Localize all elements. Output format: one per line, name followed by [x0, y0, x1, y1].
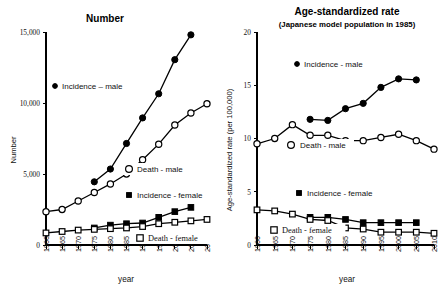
data-point [107, 181, 113, 187]
data-point [431, 146, 437, 152]
x-tick-label: 1965 [271, 236, 280, 252]
y-tick-label: 0 [36, 241, 40, 250]
data-point [59, 229, 65, 235]
data-point [156, 141, 162, 147]
x-tick-label: 1990 [359, 236, 368, 252]
legend-item: Incidence - female [122, 189, 219, 201]
data-point [378, 229, 384, 235]
x-tick-label: 1960 [42, 236, 51, 252]
x-axis-title: year [118, 275, 134, 284]
x-tick-label: 1995 [377, 236, 386, 252]
data-point [343, 217, 349, 223]
data-point [342, 106, 348, 112]
legend-item: Incidence – male [48, 80, 136, 92]
y-tick-label: 15 [244, 81, 252, 90]
chart-svg-number: Number05,00010,00015,0001960196519701975… [0, 0, 222, 286]
x-tick-label: 1985 [122, 236, 131, 252]
data-point [43, 230, 49, 236]
series-0 [307, 76, 419, 124]
legend-item: Death - female [133, 232, 211, 244]
data-point [325, 117, 331, 123]
x-tick-label: 1980 [106, 236, 115, 252]
data-point [378, 134, 384, 140]
data-point [307, 116, 313, 122]
data-point [91, 179, 97, 185]
legend-label: Death - female [282, 226, 332, 235]
data-point [378, 84, 384, 90]
data-point [156, 91, 162, 97]
data-point [414, 229, 420, 235]
data-point [172, 122, 178, 128]
legend-marker [271, 227, 277, 233]
y-tick-label: 10,000 [20, 99, 41, 108]
x-tick-label: 2000 [394, 236, 403, 252]
data-point [107, 166, 113, 172]
data-point [75, 198, 81, 204]
data-point [396, 229, 402, 235]
data-point [290, 211, 296, 217]
legend-label: Death - male [137, 165, 183, 174]
x-tick-label: 1980 [324, 236, 333, 252]
legend-label: Incidence – male [62, 82, 123, 91]
data-point [360, 100, 366, 106]
data-point [140, 157, 146, 163]
data-point [307, 217, 313, 223]
data-point [396, 131, 402, 137]
x-tick-label: 2005 [412, 236, 421, 252]
data-point [254, 207, 260, 213]
chart-svg-rate: Age-standardized rate(Japanese model pop… [222, 0, 445, 286]
x-axis-title: year [339, 275, 355, 284]
data-point [325, 218, 331, 224]
data-point [325, 132, 331, 138]
data-point [156, 215, 162, 221]
legend-marker [297, 191, 302, 196]
legend-item: Incidence - female [292, 187, 389, 199]
data-point [172, 209, 178, 215]
data-point [156, 221, 162, 227]
legend-marker [137, 235, 143, 241]
data-point [360, 220, 366, 226]
y-tick-label: 5,000 [23, 170, 40, 179]
legend-marker [288, 142, 295, 149]
y-tick-label: 15,000 [20, 28, 41, 37]
x-tick-label: 1970 [74, 236, 83, 252]
chart-subtitle: (Japanese model population in 1985) [279, 20, 416, 29]
data-point [172, 219, 178, 225]
x-tick-label: 1985 [341, 236, 350, 252]
data-point [272, 135, 278, 141]
legend-item: Death - male [284, 139, 354, 151]
x-tick-label: 1975 [306, 236, 315, 252]
y-tick-label: 20 [244, 28, 252, 37]
y-tick-label: 0 [247, 241, 251, 250]
data-point [396, 76, 402, 82]
series-line [310, 79, 416, 121]
data-point [272, 208, 278, 214]
x-tick-label: 2010 [430, 236, 439, 252]
legend-marker [127, 193, 132, 198]
legend-label: Incidence - male [304, 60, 363, 69]
data-point [140, 224, 146, 230]
data-point [91, 189, 97, 195]
data-point [414, 220, 420, 226]
data-point [92, 227, 98, 233]
legend-item: Death - female [267, 224, 345, 236]
legend-marker [126, 166, 133, 173]
data-point [413, 138, 419, 144]
data-point [123, 140, 129, 146]
data-point [360, 226, 366, 232]
y-axis-title: Age-standardized rate (per 100,000) [225, 88, 234, 211]
data-point [59, 206, 65, 212]
data-point [43, 209, 49, 215]
data-point [188, 110, 194, 116]
axis-lines [46, 32, 207, 245]
data-point [413, 77, 419, 83]
legend-label: Death - male [300, 141, 346, 150]
chart-title: Age-standardized rate [294, 6, 399, 17]
data-point [140, 115, 146, 121]
y-axis-title: Number [9, 136, 18, 163]
data-point [378, 220, 384, 226]
x-tick-label: 1975 [90, 236, 99, 252]
data-point [360, 138, 366, 144]
y-tick-label: 10 [244, 134, 252, 143]
legend-marker [53, 84, 58, 89]
